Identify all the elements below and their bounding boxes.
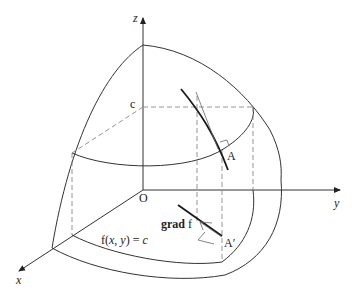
lc-eq: ) = xyxy=(126,233,143,247)
origin-label: O xyxy=(139,191,148,205)
point-a-label: A xyxy=(227,149,236,163)
x-axis-label: x xyxy=(15,273,22,287)
grad-f-arrow xyxy=(200,222,222,237)
y-axis-label: y xyxy=(333,196,340,210)
gradient-line-a xyxy=(196,92,218,149)
right-angle-a xyxy=(220,140,229,146)
gradient-diagram: z y x O c A A′ grad f f(x, y) = c xyxy=(0,0,352,290)
grad-f: f xyxy=(185,217,192,231)
surface-left-edge xyxy=(52,45,143,248)
lc-c: c xyxy=(142,233,148,247)
grad-f-label: grad f xyxy=(161,217,192,231)
x-axis xyxy=(19,190,143,271)
lc-f: f( xyxy=(101,233,109,247)
point-a-prime-label: A′ xyxy=(224,236,236,250)
z-axis-label: z xyxy=(132,11,138,25)
level-c-label: c xyxy=(130,97,135,111)
c-level-dashed-x xyxy=(72,107,143,153)
surface-right-edge xyxy=(143,45,281,180)
right-angle-a-prime xyxy=(198,232,214,244)
grad-bold: grad xyxy=(161,217,185,231)
level-curve-label: f(x, y) = c xyxy=(101,233,148,247)
